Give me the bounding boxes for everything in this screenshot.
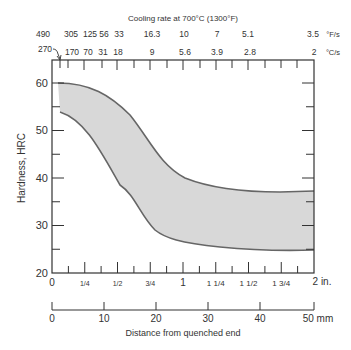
top-F-label: 305 bbox=[64, 29, 78, 39]
y-tick-label: 60 bbox=[36, 77, 48, 89]
y-tick-label: 50 bbox=[36, 124, 48, 136]
x-tick-label-mm: 20 bbox=[150, 313, 162, 324]
x-tick-label-in: 2 in. bbox=[313, 276, 332, 287]
top-axis-title: Cooling rate at 700°C (1300°F) bbox=[128, 14, 238, 23]
x-tick-label-mm: 40 bbox=[254, 313, 266, 324]
top-C-label: 18 bbox=[113, 47, 123, 57]
y-tick-label: 20 bbox=[36, 267, 48, 279]
x-tick-label-mm: 50 mm bbox=[303, 313, 334, 324]
x-tick-label-in: 3/4 bbox=[145, 280, 155, 287]
top-C-label: 270 bbox=[38, 44, 52, 54]
top-F-label: 33 bbox=[114, 29, 124, 39]
top-C-label: 5.6 bbox=[179, 47, 191, 57]
x-tick-label-mm: 10 bbox=[98, 313, 110, 324]
x-tick-label-mm: 0 bbox=[49, 313, 55, 324]
top-C-label: 70 bbox=[83, 47, 93, 57]
x-axis-label: Distance from quenched end bbox=[125, 328, 240, 338]
y-tick-label: 30 bbox=[36, 219, 48, 231]
x-ticks-mm bbox=[52, 302, 314, 310]
top-F-label: 16.3 bbox=[144, 29, 161, 39]
top-C-label: 31 bbox=[98, 47, 108, 57]
x-tick-label-in: 0 bbox=[49, 277, 55, 288]
hardness-band bbox=[58, 83, 314, 250]
top-C-label: 3.9 bbox=[211, 47, 223, 57]
top-F-unit: °F/s bbox=[326, 30, 340, 39]
x-tick-label-in: 1 1/4 bbox=[207, 279, 225, 288]
x-ticks-inches bbox=[68, 262, 297, 273]
top-F-label: 490 bbox=[36, 29, 50, 39]
x-tick-label-in: 1 1/2 bbox=[240, 279, 258, 288]
y-axis-label: Hardness, HRC bbox=[16, 133, 27, 203]
top-F-label: 3.5 bbox=[307, 29, 319, 39]
top-ticks bbox=[60, 60, 297, 70]
x-tick-label-mm: 30 bbox=[202, 313, 214, 324]
top-F-label: 56 bbox=[99, 29, 109, 39]
top-C-label: 2.8 bbox=[244, 47, 256, 57]
top-F-label: 10 bbox=[179, 29, 189, 39]
y-tick-label: 40 bbox=[36, 172, 48, 184]
top-F-label: 7 bbox=[215, 29, 220, 39]
top-C-label: 2 bbox=[312, 47, 317, 57]
x-tick-label-in: 1/4 bbox=[80, 280, 90, 287]
top-F-label: 5.1 bbox=[242, 29, 254, 39]
x-tick-label-in: 1 3/4 bbox=[272, 279, 290, 288]
top-C-label: 9 bbox=[150, 47, 155, 57]
top-F-label: 125 bbox=[83, 29, 97, 39]
x-tick-label-in: 1/2 bbox=[113, 280, 123, 287]
arrow-icon bbox=[53, 49, 60, 59]
top-C-unit: °C/s bbox=[326, 48, 340, 57]
top-C-label: 170 bbox=[65, 47, 79, 57]
jominy-hardenability-chart: 20 30 40 50 60 Hardness, HRC 0 1/4 1/2 3… bbox=[0, 0, 351, 350]
x-tick-label-in: 1 bbox=[180, 277, 186, 288]
